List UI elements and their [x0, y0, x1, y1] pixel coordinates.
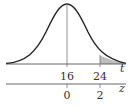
t-label-24: 24: [93, 70, 107, 83]
z-axis-label: z: [118, 82, 125, 95]
z-label-0: 0: [64, 89, 71, 102]
t-label-16: 16: [60, 70, 74, 83]
z-label-2: 2: [97, 89, 104, 102]
t-axis-label: t: [120, 62, 125, 75]
bell-curve: [6, 4, 126, 64]
normal-curve-diagram: 16 24 t 0 2 z: [0, 0, 135, 108]
